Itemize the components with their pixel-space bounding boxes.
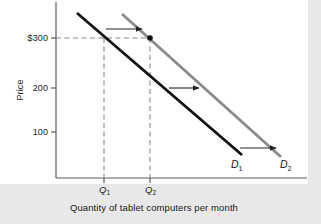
y-tick-label-100: 100 (12, 127, 48, 137)
y-tick-label-300: $300 (12, 33, 48, 43)
d2-subscript: 2 (288, 165, 292, 172)
demand-curve-d2 (122, 14, 281, 157)
x-axis-title: Quantity of tablet computers per month (0, 202, 308, 213)
x-tick-label-q2: Q2 (145, 184, 156, 195)
y-axis-title: Price (15, 68, 25, 112)
q1-subscript: 1 (106, 189, 110, 196)
curve-label-d2: D2 (280, 158, 292, 170)
d1-subscript: 1 (239, 165, 243, 172)
equilibrium-point-d2 (147, 35, 153, 41)
curve-label-d1: D1 (231, 158, 243, 170)
d1-base: D (231, 158, 239, 170)
demand-curve-d1 (77, 13, 242, 155)
x-tick-label-q1: Q1 (99, 184, 110, 195)
demand-shift-figure: $300 200 100 Price Q1 Q2 Quantity of tab… (0, 0, 321, 224)
demand-curve-graph (0, 0, 321, 224)
d2-base: D (280, 158, 288, 170)
q2-subscript: 2 (152, 189, 156, 196)
